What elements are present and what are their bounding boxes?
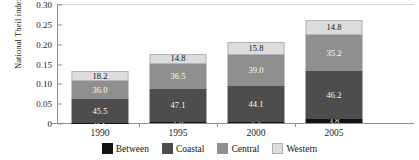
x-axis-tick-label: 2000 bbox=[247, 128, 266, 138]
bar-segment-between[interactable]: 1.1 bbox=[228, 122, 285, 123]
legend-label: Western bbox=[286, 144, 317, 154]
y-axis-tick-mark bbox=[58, 104, 62, 105]
bar-segment-between[interactable]: 1.6 bbox=[150, 122, 207, 123]
legend-label: Between bbox=[116, 144, 149, 154]
y-axis-tick-mark bbox=[58, 5, 62, 6]
legend-swatch-western bbox=[272, 143, 283, 154]
x-axis-tick-label: 2005 bbox=[325, 128, 344, 138]
x-axis-tick-mark bbox=[217, 123, 218, 127]
y-axis-tick-label: 0.15 bbox=[36, 60, 58, 70]
y-axis-tick-label: 0.10 bbox=[36, 79, 58, 89]
bar-segment-value: 46.2 bbox=[327, 91, 342, 100]
bar-segment-western[interactable]: 14.8 bbox=[150, 54, 207, 64]
bar-segment-value: 1.1 bbox=[251, 122, 262, 123]
y-axis-tick-mark bbox=[58, 44, 62, 45]
x-axis-tick-mark bbox=[139, 123, 140, 127]
x-axis-tick-label: 1990 bbox=[91, 128, 110, 138]
legend-entry-coastal[interactable]: Coastal bbox=[162, 143, 205, 154]
bar-segment-central[interactable]: 36.5 bbox=[150, 64, 207, 89]
bar-segment-value: 47.1 bbox=[171, 101, 186, 110]
bar-segment-coastal[interactable]: 46.2 bbox=[306, 71, 363, 119]
bar-segment-value: 36.0 bbox=[93, 86, 108, 95]
bar-segment-value: 15.8 bbox=[249, 44, 264, 53]
bar-segment-value: 1.6 bbox=[173, 122, 184, 123]
bar-segment-western[interactable]: 18.2 bbox=[72, 71, 129, 80]
stacked-bar-chart: National Theil index 00.050.100.150.200.… bbox=[0, 0, 419, 160]
bar-1990[interactable]: 18.236.045.50.3 bbox=[72, 71, 129, 123]
y-axis-tick-mark bbox=[58, 84, 62, 85]
y-axis-tick-label: 0.20 bbox=[36, 40, 58, 50]
x-axis-tick-mark bbox=[295, 123, 296, 127]
legend-entry-western[interactable]: Western bbox=[272, 143, 317, 154]
bar-segment-value: 3.8 bbox=[329, 119, 340, 123]
bar-segment-western[interactable]: 14.8 bbox=[306, 20, 363, 35]
bar-segment-coastal[interactable]: 47.1 bbox=[150, 89, 207, 122]
y-axis-tick-label: 0.30 bbox=[36, 0, 58, 10]
x-axis-line bbox=[52, 123, 414, 124]
bar-segment-value: 39.0 bbox=[249, 66, 264, 75]
bar-segment-coastal[interactable]: 44.1 bbox=[228, 86, 285, 122]
y-axis-tick-label: 0 bbox=[48, 119, 59, 129]
y-axis-tick-mark bbox=[58, 24, 62, 25]
legend-entry-central[interactable]: Central bbox=[217, 143, 259, 154]
bar-segment-between[interactable]: 3.8 bbox=[306, 119, 363, 123]
y-axis-title: National Theil index bbox=[13, 0, 23, 93]
bar-1995[interactable]: 14.836.547.11.6 bbox=[150, 54, 207, 123]
y-axis-tick-label: 0.25 bbox=[36, 20, 58, 30]
legend-entry-between[interactable]: Between bbox=[102, 143, 149, 154]
bar-segment-central[interactable]: 35.2 bbox=[306, 35, 363, 71]
bar-2000[interactable]: 15.839.044.11.1 bbox=[228, 42, 285, 123]
bar-2005[interactable]: 14.835.246.23.8 bbox=[306, 20, 363, 123]
legend-swatch-between bbox=[102, 143, 113, 154]
x-axis-tick-label: 1995 bbox=[169, 128, 188, 138]
bar-segment-value: 45.5 bbox=[93, 107, 108, 116]
y-axis-tick-mark bbox=[58, 64, 62, 65]
bar-segment-value: 18.2 bbox=[93, 72, 108, 81]
bar-segment-coastal[interactable]: 45.5 bbox=[72, 99, 129, 122]
bar-segment-western[interactable]: 15.8 bbox=[228, 42, 285, 55]
chart-legend: BetweenCoastalCentralWestern bbox=[0, 143, 419, 154]
legend-swatch-central bbox=[217, 143, 228, 154]
y-axis-tick-label: 0.05 bbox=[36, 99, 58, 109]
bar-segment-value: 35.2 bbox=[327, 49, 342, 58]
legend-swatch-coastal bbox=[162, 143, 173, 154]
bar-segment-value: 14.8 bbox=[171, 54, 186, 63]
legend-label: Central bbox=[231, 144, 259, 154]
bar-segment-central[interactable]: 39.0 bbox=[228, 55, 285, 87]
bar-segment-value: 14.8 bbox=[327, 23, 342, 32]
legend-label: Coastal bbox=[176, 144, 205, 154]
bar-segment-value: 44.1 bbox=[249, 100, 264, 109]
bar-segment-value: 36.5 bbox=[171, 72, 186, 81]
bar-segment-central[interactable]: 36.0 bbox=[72, 81, 129, 100]
